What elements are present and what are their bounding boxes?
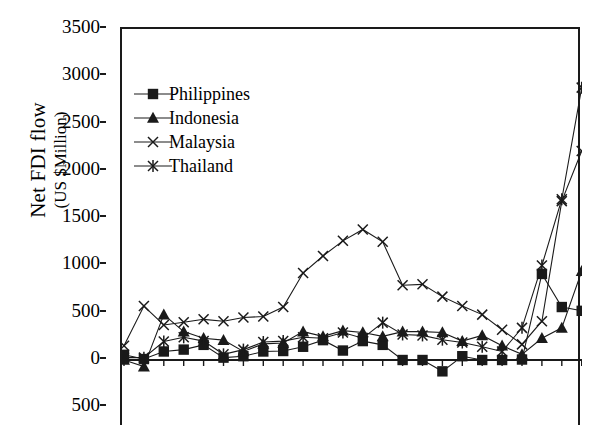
data-point-cross-x	[437, 292, 447, 302]
y-axis-tick-mark	[100, 357, 106, 359]
data-point-cross-x	[378, 237, 388, 247]
data-point-cross-x	[358, 224, 368, 234]
legend-label: Indonesia	[169, 108, 239, 129]
data-point-filled-square	[159, 346, 169, 356]
data-point-star-asterisk	[537, 259, 547, 271]
series-line	[124, 274, 582, 371]
legend-marker-filled-square-icon	[134, 84, 172, 104]
y-axis-tick-label: 500	[40, 301, 100, 320]
y-axis-tick-mark	[100, 262, 106, 264]
chart-figure: Net FDI flow (US $Million) 3500300025002…	[0, 0, 616, 425]
data-point-filled-triangle	[576, 265, 582, 276]
data-point-star-asterisk	[477, 341, 487, 353]
data-point-star-asterisk	[378, 317, 388, 329]
data-point-filled-square	[148, 89, 158, 99]
data-point-star-asterisk	[577, 82, 582, 94]
series-line	[124, 271, 582, 367]
data-point-cross-x	[497, 325, 507, 335]
data-point-cross-x	[298, 268, 308, 278]
data-point-filled-triangle	[516, 348, 528, 359]
data-point-star-asterisk	[557, 193, 567, 205]
data-point-cross-x	[318, 251, 328, 261]
data-point-filled-square	[338, 345, 348, 355]
y-axis-tick-label: 3500	[40, 17, 100, 36]
data-point-cross-x	[457, 301, 467, 311]
legend-item-thailand: Thailand	[134, 154, 314, 178]
data-point-filled-triangle	[147, 112, 159, 123]
data-point-filled-square	[179, 344, 189, 354]
data-point-cross-x	[338, 236, 348, 246]
series-indonesia	[122, 265, 582, 372]
y-axis-tick-mark	[100, 310, 106, 312]
data-point-filled-triangle	[556, 322, 568, 333]
legend-item-malaysia: Malaysia	[134, 130, 314, 154]
legend-marker-star-asterisk-icon	[134, 156, 172, 176]
data-point-filled-square	[577, 306, 583, 316]
legend-marker-cross-x-icon	[134, 132, 172, 152]
data-point-filled-square	[477, 355, 487, 365]
y-axis-tick-mark	[100, 26, 106, 28]
y-axis-tick-label: 2500	[40, 112, 100, 131]
legend-marker-filled-triangle-icon	[134, 108, 172, 128]
legend: PhilippinesIndonesiaMalaysiaThailand	[134, 82, 314, 178]
y-axis-tick-label: 500	[40, 395, 100, 414]
legend-item-indonesia: Indonesia	[134, 106, 314, 130]
data-point-cross-x	[139, 301, 149, 311]
y-axis-tick-mark	[100, 73, 106, 75]
data-point-star-asterisk	[517, 322, 527, 334]
y-axis-tick-label: 0	[40, 348, 100, 367]
y-axis-tick-mark	[100, 168, 106, 170]
series-line	[124, 151, 582, 346]
data-point-star-asterisk	[179, 331, 189, 343]
legend-label: Malaysia	[169, 132, 235, 153]
data-point-filled-square	[457, 351, 467, 361]
data-point-filled-square	[557, 302, 567, 312]
y-axis-tick-labels: 3500300025002000150010005000500	[34, 0, 100, 425]
data-point-filled-square	[397, 355, 407, 365]
y-axis-tick-label: 2000	[40, 159, 100, 178]
data-point-filled-triangle	[158, 308, 170, 319]
data-point-filled-triangle	[536, 332, 548, 343]
y-axis-tick-label: 1500	[40, 206, 100, 225]
y-axis-tick-label: 3000	[40, 64, 100, 83]
legend-label: Philippines	[169, 84, 250, 105]
legend-item-philippines: Philippines	[134, 82, 314, 106]
y-axis-tick-label: 1000	[40, 253, 100, 272]
data-point-cross-x	[577, 146, 582, 156]
data-point-star-asterisk	[159, 336, 169, 348]
data-point-cross-x	[537, 316, 547, 326]
y-axis-tick-mark	[100, 121, 106, 123]
data-point-filled-square	[417, 355, 427, 365]
data-point-cross-x	[477, 310, 487, 320]
y-axis-tick-mark	[100, 404, 106, 406]
data-point-filled-square	[437, 366, 447, 376]
data-point-cross-x	[278, 302, 288, 312]
legend-label: Thailand	[169, 156, 233, 177]
y-axis-tick-mark	[100, 215, 106, 217]
data-point-star-asterisk	[497, 345, 507, 357]
data-point-filled-square	[378, 340, 388, 350]
data-point-filled-triangle	[476, 329, 488, 340]
